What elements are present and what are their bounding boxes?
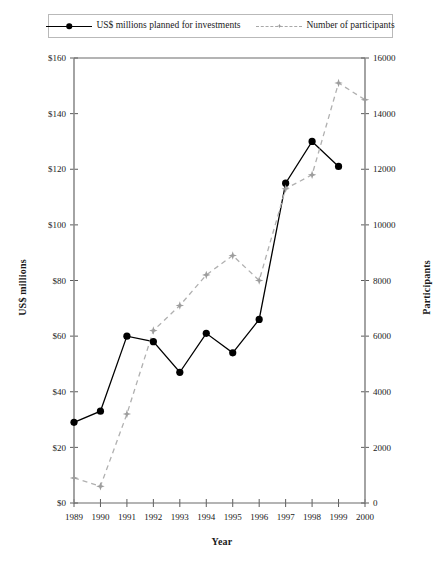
svg-text:1989: 1989 xyxy=(65,512,84,522)
svg-text:1992: 1992 xyxy=(144,512,162,522)
y-axis-left-title: US$ millions xyxy=(17,243,28,333)
y-axis-right-ticks: 0200040006000800010000120001400016000 xyxy=(361,53,396,508)
svg-text:1990: 1990 xyxy=(91,512,110,522)
svg-text:$60: $60 xyxy=(53,331,67,341)
svg-text:1994: 1994 xyxy=(197,512,216,522)
svg-text:1997: 1997 xyxy=(277,512,296,522)
data-point-markers xyxy=(70,79,369,491)
svg-text:6000: 6000 xyxy=(373,331,392,341)
svg-text:12000: 12000 xyxy=(373,164,396,174)
svg-text:$0: $0 xyxy=(57,498,67,508)
svg-text:0: 0 xyxy=(373,498,378,508)
svg-text:$80: $80 xyxy=(53,276,67,286)
plot-area: $0$20$40$60$80$100$120$140$160 020004000… xyxy=(0,0,444,571)
x-axis-title: Year xyxy=(0,536,444,547)
svg-text:1993: 1993 xyxy=(171,512,190,522)
svg-text:10000: 10000 xyxy=(373,220,396,230)
svg-text:$120: $120 xyxy=(48,164,67,174)
svg-text:$160: $160 xyxy=(48,53,67,63)
axis-lines xyxy=(74,58,365,503)
chart-canvas: $0$20$40$60$80$100$120$140$160 020004000… xyxy=(0,0,444,571)
svg-text:$40: $40 xyxy=(53,387,67,397)
svg-text:1999: 1999 xyxy=(330,512,349,522)
svg-text:$140: $140 xyxy=(48,109,67,119)
svg-text:1991: 1991 xyxy=(118,512,136,522)
svg-text:1995: 1995 xyxy=(224,512,243,522)
svg-text:16000: 16000 xyxy=(373,53,396,63)
chart-figure: US$ millions planned for investments Num… xyxy=(0,0,444,571)
svg-text:1996: 1996 xyxy=(250,512,269,522)
data-series-lines xyxy=(74,83,365,486)
svg-text:8000: 8000 xyxy=(373,276,392,286)
svg-text:1998: 1998 xyxy=(303,512,322,522)
svg-text:$100: $100 xyxy=(48,220,67,230)
svg-text:2000: 2000 xyxy=(373,443,392,453)
svg-text:14000: 14000 xyxy=(373,109,396,119)
y-axis-right-title: Participants xyxy=(421,243,432,333)
svg-text:4000: 4000 xyxy=(373,387,392,397)
svg-text:2000: 2000 xyxy=(356,512,375,522)
svg-text:$20: $20 xyxy=(53,443,67,453)
